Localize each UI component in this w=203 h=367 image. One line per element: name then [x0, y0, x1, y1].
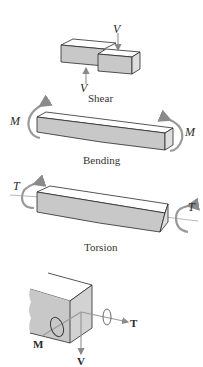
combined-block-top	[30, 272, 92, 291]
bending-figure	[28, 106, 182, 151]
bending-caption: Bending	[83, 155, 120, 166]
bending-left-moment-label: M	[10, 115, 20, 127]
shear-right-block-front	[98, 54, 132, 74]
combined-block-front	[29, 289, 70, 343]
torsion-axis-left	[10, 195, 40, 197]
shear-bottom-force-label: V	[80, 82, 87, 94]
shear-figure	[61, 33, 140, 84]
torsion-left-torque-label: T	[13, 180, 20, 192]
torsion-right-torque-label: T	[188, 201, 195, 213]
shear-left-block-front	[61, 45, 104, 66]
shear-caption: Shear	[88, 93, 113, 104]
combined-shear-label: V	[77, 356, 85, 367]
combined-torque-label: T	[130, 318, 137, 329]
torsion-figure	[10, 184, 198, 232]
combined-figure	[29, 272, 128, 354]
torsion-caption: Torsion	[84, 242, 117, 253]
combined-moment-label: M	[33, 339, 43, 350]
bending-right-moment-label: M	[185, 126, 195, 138]
torsion-axis-right	[165, 217, 198, 221]
shear-top-force-label: V	[113, 23, 120, 35]
